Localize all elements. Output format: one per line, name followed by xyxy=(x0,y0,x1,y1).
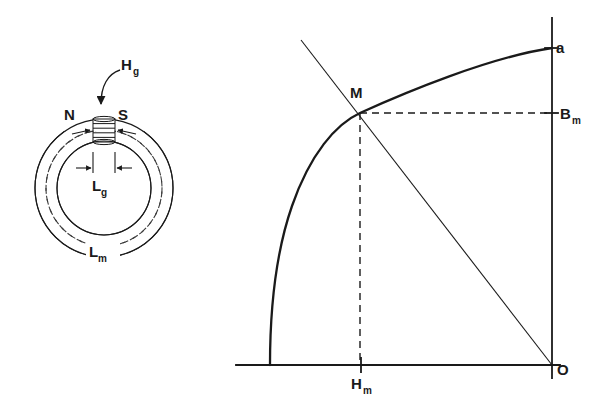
north-pole-label: N xyxy=(64,106,75,123)
lg-label-subscript: g xyxy=(101,187,107,198)
lm-label-subscript: m xyxy=(98,253,107,264)
hm-axis-label-subscript: m xyxy=(363,385,372,396)
figure-canvas: H g N S L g L m xyxy=(0,0,607,403)
bm-axis-label-subscript: m xyxy=(572,115,581,126)
gap-length-dimension xyxy=(76,152,132,173)
bm-axis-label: B xyxy=(560,105,571,122)
hg-label: H xyxy=(121,56,132,73)
hg-label-subscript: g xyxy=(133,66,139,77)
south-pole-label: S xyxy=(118,106,128,123)
point-o-label: O xyxy=(557,361,569,378)
air-gap-rect xyxy=(93,119,115,142)
figure-svg: H g N S L g L m xyxy=(0,0,607,403)
lg-label: L xyxy=(92,177,101,194)
demagnetization-chart: a M O B m H m xyxy=(236,18,581,396)
point-m-label: M xyxy=(350,84,363,101)
hg-leader-arrow xyxy=(101,70,120,104)
load-line xyxy=(301,40,552,365)
toroid-diagram: H g N S L g L m xyxy=(35,56,173,264)
demagnetization-curve xyxy=(270,48,552,365)
air-gap-block xyxy=(93,116,115,144)
lm-label: L xyxy=(89,243,98,260)
hm-axis-label: H xyxy=(351,375,362,392)
point-a-label: a xyxy=(556,39,565,56)
